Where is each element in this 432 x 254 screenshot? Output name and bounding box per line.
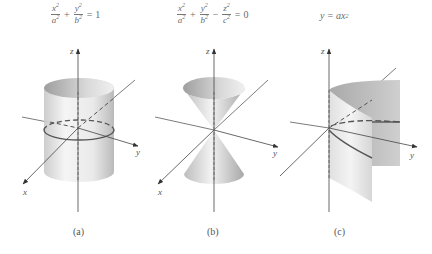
svg-text:x: x bbox=[22, 187, 27, 197]
x-axis-back-b bbox=[155, 117, 214, 130]
panel-c-parabolic-cylinder: z y bbox=[280, 46, 417, 212]
svg-text:y: y bbox=[135, 147, 140, 157]
svg-text:y: y bbox=[272, 148, 277, 158]
caption-a: (a) bbox=[73, 226, 84, 237]
svg-text:z: z bbox=[69, 46, 74, 56]
svg-text:y: y bbox=[409, 150, 414, 160]
panel-a-elliptic-cylinder: z y x bbox=[22, 46, 140, 212]
caption-c: (c) bbox=[334, 226, 345, 237]
svg-text:z: z bbox=[320, 46, 325, 56]
caption-b: (b) bbox=[207, 226, 219, 237]
panel-b-elliptic-cone: z y x bbox=[155, 46, 278, 212]
x-axis-back-c bbox=[290, 122, 329, 128]
svg-text:z: z bbox=[205, 46, 210, 56]
x-axis-c bbox=[280, 128, 329, 176]
quadric-surfaces-figure: z y x z y x z bbox=[0, 0, 432, 254]
svg-text:x: x bbox=[157, 187, 162, 197]
cylinder-top-opening bbox=[44, 78, 114, 98]
